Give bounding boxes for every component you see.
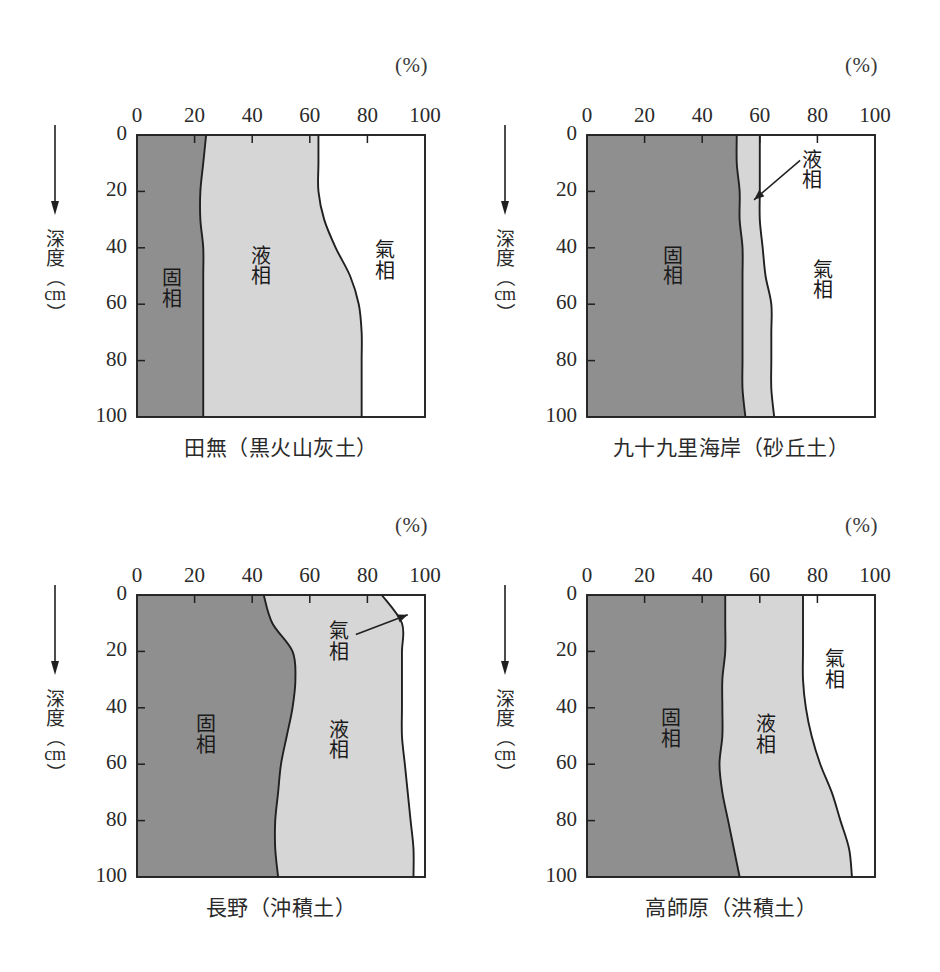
phase-label-char: 相 (328, 642, 350, 663)
phase-label-char: 液 (755, 714, 777, 735)
phase-label-solid: 固相 (195, 714, 217, 756)
y-tick-label: 80 (531, 807, 577, 832)
y-axis-paren-close: ） (497, 295, 513, 329)
y-tick-label: 20 (531, 177, 577, 202)
unit-label-percent: (%) (395, 513, 428, 538)
chart-caption: 高師原（洪積土） (507, 891, 940, 921)
x-tick-label: 80 (794, 563, 840, 588)
y-tick-label: 40 (81, 694, 127, 719)
y-axis-paren-close: ） (497, 755, 513, 789)
x-tick-label: 60 (287, 103, 333, 128)
phase-label-char: 相 (660, 729, 682, 750)
phase-label-char: 固 (660, 708, 682, 729)
y-axis-title: 深度（cm） (38, 230, 72, 320)
phase-label-char: 相 (812, 280, 834, 301)
x-tick-label: 40 (229, 563, 275, 588)
depth-direction-arrow-icon (45, 125, 65, 217)
phase-label-char: 相 (801, 170, 823, 191)
unit-label-percent: (%) (845, 513, 878, 538)
x-tick-label: 60 (287, 563, 333, 588)
unit-label-percent: (%) (395, 53, 428, 78)
chart-caption: 田無（黒火山灰土） (57, 431, 505, 461)
phase-label-solid: 固相 (662, 246, 684, 288)
phase-label-gas: 氣相 (328, 621, 350, 663)
y-tick-label: 100 (81, 403, 127, 428)
y-tick-label: 60 (81, 750, 127, 775)
phase-label-liquid: 液相 (801, 150, 823, 192)
phase-label-char: 氣 (824, 649, 846, 670)
phase-label-liquid: 液相 (328, 720, 350, 762)
phase-label-solid: 固相 (660, 708, 682, 750)
y-axis-paren-open: （ (47, 720, 63, 754)
phase-label-char: 相 (374, 261, 396, 282)
phase-label-char: 固 (662, 246, 684, 267)
y-tick-label: 20 (531, 637, 577, 662)
chart-caption: 九十九里海岸（砂丘土） (507, 431, 940, 461)
x-tick-label: 80 (344, 563, 390, 588)
y-axis-paren-open: （ (497, 260, 513, 294)
y-tick-label: 0 (531, 121, 577, 146)
x-tick-label: 20 (172, 103, 218, 128)
x-tick-label: 100 (402, 563, 448, 588)
phase-label-liquid: 液相 (250, 246, 272, 288)
y-tick-label: 40 (81, 234, 127, 259)
x-tick-label: 80 (794, 103, 840, 128)
y-tick-label: 60 (531, 750, 577, 775)
chart-plot-area (136, 594, 426, 878)
y-axis-paren-close: ） (47, 295, 63, 329)
x-tick-label: 100 (852, 563, 898, 588)
depth-direction-arrow-icon (495, 125, 515, 217)
x-tick-label: 100 (402, 103, 448, 128)
phase-label-char: 相 (195, 735, 217, 756)
unit-label-percent: (%) (845, 53, 878, 78)
y-tick-label: 40 (531, 694, 577, 719)
phase-label-char: 固 (161, 268, 183, 289)
y-tick-label: 40 (531, 234, 577, 259)
y-axis-title: 深度（cm） (488, 230, 522, 320)
depth-direction-arrow-icon (495, 585, 515, 677)
x-tick-label: 80 (344, 103, 390, 128)
phase-label-char: 相 (328, 740, 350, 761)
phase-label-solid: 固相 (161, 268, 183, 310)
y-axis-title: 深度（cm） (38, 690, 72, 780)
y-axis-paren-close: ） (47, 755, 63, 789)
depth-direction-arrow-icon (45, 585, 65, 677)
phase-label-gas: 氣相 (374, 240, 396, 282)
y-tick-label: 100 (81, 863, 127, 888)
phase-label-char: 氣 (812, 260, 834, 281)
x-tick-label: 40 (679, 563, 725, 588)
y-tick-label: 60 (81, 290, 127, 315)
y-tick-label: 80 (531, 347, 577, 372)
y-tick-label: 100 (531, 403, 577, 428)
x-tick-label: 40 (229, 103, 275, 128)
x-tick-label: 20 (622, 563, 668, 588)
x-tick-label: 20 (622, 103, 668, 128)
phase-label-char: 相 (824, 670, 846, 691)
phase-label-char: 相 (161, 289, 183, 310)
phase-label-char: 相 (662, 266, 684, 287)
chart-plot-area (586, 594, 876, 878)
x-tick-label: 100 (852, 103, 898, 128)
phase-label-char: 固 (195, 714, 217, 735)
y-axis-paren-open: （ (47, 260, 63, 294)
y-tick-label: 20 (81, 637, 127, 662)
phase-label-char: 相 (755, 735, 777, 756)
y-tick-label: 100 (531, 863, 577, 888)
y-tick-label: 20 (81, 177, 127, 202)
chart-caption: 長野（沖積土） (57, 891, 505, 921)
phase-label-liquid: 液相 (755, 714, 777, 756)
y-tick-label: 80 (81, 347, 127, 372)
phase-label-char: 液 (250, 246, 272, 267)
y-tick-label: 0 (81, 581, 127, 606)
phase-label-char: 液 (801, 150, 823, 171)
x-tick-label: 40 (679, 103, 725, 128)
y-tick-label: 0 (81, 121, 127, 146)
y-axis-title: 深度（cm） (488, 690, 522, 780)
y-tick-label: 60 (531, 290, 577, 315)
phase-label-gas: 氣相 (824, 649, 846, 691)
y-tick-label: 0 (531, 581, 577, 606)
x-tick-label: 60 (737, 563, 783, 588)
y-axis-paren-open: （ (497, 720, 513, 754)
soil-three-phase-figure: (%)020406080100020406080100深度（cm）固相液相氣相田… (0, 0, 940, 972)
x-tick-label: 20 (172, 563, 218, 588)
